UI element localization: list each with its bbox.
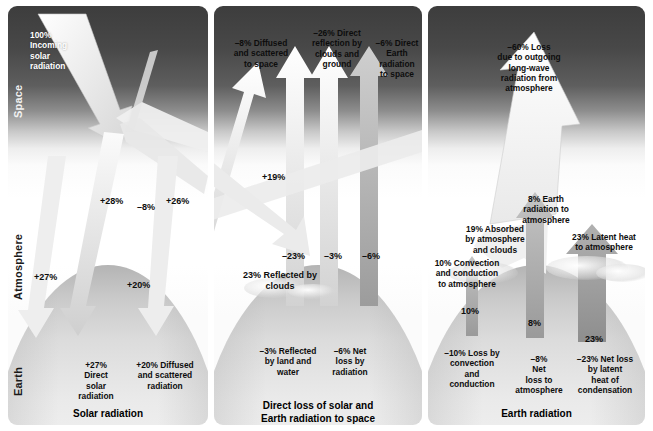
caption-direct-loss: Direct loss of solar and Earth radiation… <box>214 400 422 425</box>
axis-label-earth: Earth <box>12 367 24 396</box>
label-loss-outgoing-longwave: –60% Loss due to outgoing long-wave radi… <box>482 42 576 93</box>
pct-10: 10% <box>461 306 479 316</box>
pct-minus-6: –6% <box>362 251 380 261</box>
panel-direct-loss: –8% Diffused and scattered to space –26%… <box>214 6 422 425</box>
panel-solar-radiation: 100% Incoming solar radiation +28% –8% +… <box>8 6 208 425</box>
label-direct-solar-radiation: +27% Direct solar radiation <box>66 360 126 401</box>
label-reflected-by-land-and-water: –3% Reflected by land and water <box>256 346 320 377</box>
label-absorbed-by-atmosphere-and-clouds: 19% Absorbed by atmosphere and clouds <box>456 224 534 255</box>
label-diffused-scattered-radiation: +20% Diffused and scattered radiation <box>124 360 206 391</box>
caption-solar-radiation: Solar radiation <box>8 408 208 421</box>
pct-plus-27: +27% <box>34 272 57 282</box>
label-diffused-scattered-to-space: –8% Diffused and scattered to space <box>222 38 300 69</box>
label-net-loss-to-atmosphere: –8% Net loss to atmosphere <box>508 354 570 395</box>
pct-plus-19: +19% <box>262 172 285 182</box>
panel-earth-radiation: –60% Loss due to outgoing long-wave radi… <box>428 6 645 425</box>
label-latent-heat-to-atmosphere: 23% Latent heat to atmosphere <box>564 232 644 253</box>
caption-earth-radiation: Earth radiation <box>428 408 645 421</box>
pct-plus-28: +28% <box>100 196 123 206</box>
cloud <box>596 264 645 282</box>
pct-minus-8: –8% <box>137 202 155 212</box>
label-incoming-solar: 100% Incoming solar radiation <box>30 30 122 71</box>
label-earth-radiation-to-atmosphere: 8% Earth radiation to atmosphere <box>510 194 582 225</box>
axis-label-space: Space <box>12 85 24 118</box>
pct-plus-20: +20% <box>127 280 150 290</box>
label-net-loss-by-latent-heat: –23% Net loss by latent heat of condensa… <box>568 354 642 395</box>
label-net-loss-by-radiation: –6% Net loss by radiation <box>324 346 376 377</box>
energy-budget-diagram: 100% Incoming solar radiation +28% –8% +… <box>0 0 653 431</box>
label-convection-and-conduction: 10% Convection and conduction to atmosph… <box>428 258 510 289</box>
pct-minus-23: –23% <box>282 251 305 261</box>
label-direct-earth-radiation-to-space: –6% Direct Earth radiation to space <box>372 38 422 79</box>
pct-8: 8% <box>528 318 541 328</box>
label-loss-by-convection-and-conduction: –10% Loss by convection and conduction <box>434 348 510 389</box>
pct-23: 23% <box>585 334 603 344</box>
pct-minus-3: –3% <box>324 251 342 261</box>
pct-plus-26: +26% <box>166 196 189 206</box>
label-reflected-by-clouds: 23% Reflected by clouds <box>228 270 332 292</box>
label-direct-reflection: –26% Direct reflection by clouds and gro… <box>300 28 374 69</box>
axis-label-atmosphere: Atmosphere <box>12 234 24 300</box>
